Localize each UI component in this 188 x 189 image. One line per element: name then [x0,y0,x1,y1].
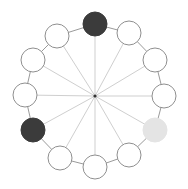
node-empty-11[interactable] [45,24,69,48]
node-empty-6[interactable] [83,155,107,179]
node-empty-9[interactable] [13,83,37,107]
center-hub [93,94,96,97]
node-empty-2[interactable] [143,48,167,72]
node-empty-7[interactable] [48,146,72,170]
node-light-4[interactable] [143,118,167,142]
node-empty-10[interactable] [21,48,45,72]
node-dark-8[interactable] [21,118,45,142]
ring-board [0,0,188,189]
node-empty-3[interactable] [152,84,176,108]
node-empty-5[interactable] [117,143,141,167]
board-canvas [0,0,188,189]
node-dark-0[interactable] [83,12,107,36]
node-empty-1[interactable] [117,21,141,45]
